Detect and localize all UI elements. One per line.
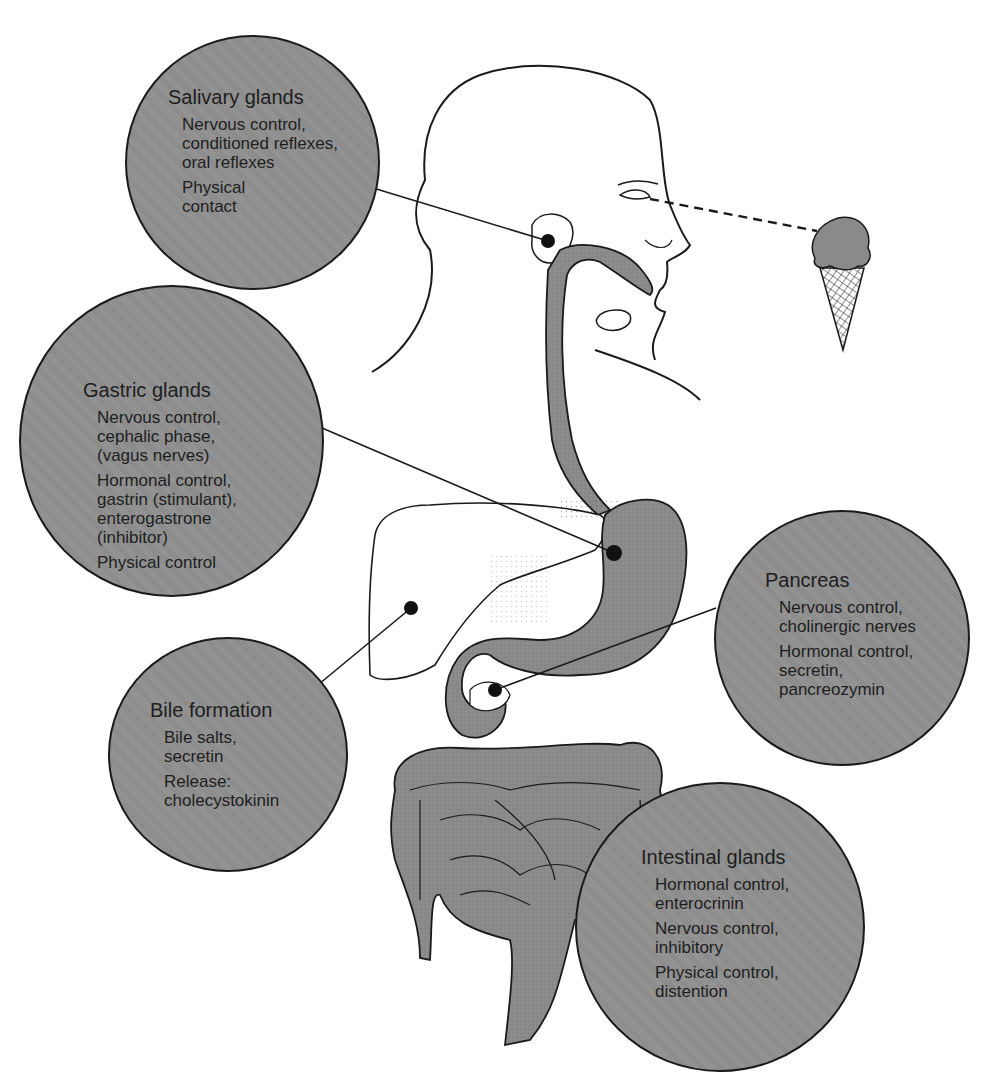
text-line: Nervous control, bbox=[655, 919, 789, 938]
pancreas-group-2: Hormonal control, secretin, pancreozymin bbox=[779, 642, 916, 699]
text-line: secretin, bbox=[779, 661, 916, 680]
text-line: cholinergic nerves bbox=[779, 617, 916, 636]
bile-group-1: Bile salts, secretin bbox=[164, 728, 279, 766]
salivary-group-2: Physical contact bbox=[182, 178, 338, 216]
text-line: Bile salts, bbox=[164, 728, 279, 747]
gastric-glands-label: Gastric glands Nervous control, cephalic… bbox=[83, 378, 237, 578]
text-line: Physical bbox=[182, 178, 338, 197]
eye-icon bbox=[620, 190, 650, 199]
text-line: Nervous control, bbox=[779, 598, 916, 617]
text-line: conditioned reflexes, bbox=[182, 134, 338, 153]
intestinal-group-1: Hormonal control, enterocrinin bbox=[655, 875, 789, 913]
gastric-group-2: Hormonal control, gastrin (stimulant), e… bbox=[97, 471, 237, 547]
text-line: Hormonal control, bbox=[655, 875, 789, 894]
text-line: Physical control, bbox=[655, 963, 789, 982]
text-line: (vagus nerves) bbox=[97, 446, 237, 465]
salivary-dot bbox=[541, 234, 555, 248]
text-line: enterogastrone bbox=[97, 509, 237, 528]
text-line: Hormonal control, bbox=[779, 642, 916, 661]
text-line: Physical control bbox=[97, 553, 237, 572]
text-line: gastrin (stimulant), bbox=[97, 490, 237, 509]
intestinal-group-2: Nervous control, inhibitory bbox=[655, 919, 789, 957]
gastric-group-3: Physical control bbox=[97, 553, 237, 572]
text-line: Release: bbox=[164, 772, 279, 791]
text-line: pancreozymin bbox=[779, 680, 916, 699]
esophagus bbox=[546, 245, 652, 515]
gastric-dot bbox=[606, 545, 622, 561]
gastric-group-1: Nervous control, cephalic phase, (vagus … bbox=[97, 408, 237, 465]
pancreas-dot bbox=[488, 683, 502, 697]
text-line: Nervous control, bbox=[182, 115, 338, 134]
intestinal-glands-label: Intestinal glands Hormonal control, ente… bbox=[641, 845, 789, 1007]
bile-title: Bile formation bbox=[150, 698, 279, 722]
text-line: enterocrinin bbox=[655, 894, 789, 913]
bile-dot bbox=[404, 601, 418, 615]
pancreas-title: Pancreas bbox=[765, 568, 916, 592]
intestinal-group-3: Physical control, distention bbox=[655, 963, 789, 1001]
text-line: distention bbox=[655, 982, 789, 1001]
text-line: oral reflexes bbox=[182, 153, 338, 172]
bile-group-2: Release: cholecystokinin bbox=[164, 772, 279, 810]
salivary-glands-label: Salivary glands Nervous control, conditi… bbox=[168, 85, 338, 222]
gastric-title: Gastric glands bbox=[83, 378, 237, 402]
pancreas-label: Pancreas Nervous control, cholinergic ne… bbox=[765, 568, 916, 705]
ice-cream-cone-icon bbox=[812, 217, 870, 350]
text-line: contact bbox=[182, 197, 338, 216]
text-line: secretin bbox=[164, 747, 279, 766]
intestinal-title: Intestinal glands bbox=[641, 845, 789, 869]
text-line: (inhibitor) bbox=[97, 528, 237, 547]
text-line: Nervous control, bbox=[97, 408, 237, 427]
salivary-group-1: Nervous control, conditioned reflexes, o… bbox=[182, 115, 338, 172]
text-line: cholecystokinin bbox=[164, 791, 279, 810]
text-line: inhibitory bbox=[655, 938, 789, 957]
text-line: Hormonal control, bbox=[97, 471, 237, 490]
pancreas-group-1: Nervous control, cholinergic nerves bbox=[779, 598, 916, 636]
bile-formation-label: Bile formation Bile salts, secretin Rele… bbox=[150, 698, 279, 816]
submandibular-gland bbox=[596, 310, 630, 330]
salivary-title: Salivary glands bbox=[168, 85, 338, 109]
digestive-control-diagram: Salivary glands Nervous control, conditi… bbox=[0, 0, 991, 1086]
text-line: cephalic phase, bbox=[97, 427, 237, 446]
